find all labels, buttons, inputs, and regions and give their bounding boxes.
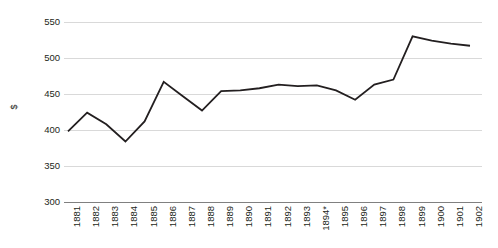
plot-area <box>64 22 482 202</box>
y-axis-tick-label: 550 <box>26 17 60 27</box>
y-axis-tick-label: 450 <box>26 89 60 99</box>
x-axis-tick-label: 1900 <box>436 206 446 246</box>
x-axis-tick-label: 1902 <box>474 206 484 246</box>
x-axis-tick-label: 1901 <box>455 206 465 246</box>
x-axis-tick-label: 1893 <box>302 206 312 246</box>
x-axis-tick-label: 1894* <box>321 206 331 246</box>
x-axis-tick-label: 1895 <box>340 206 350 246</box>
x-axis-tick-label: 1888 <box>206 206 216 246</box>
line-chart: $ 300350400450500550 1881188218831884188… <box>0 0 498 248</box>
x-axis-tick-label: 1886 <box>168 206 178 246</box>
series-line-dollar <box>68 36 470 141</box>
x-axis-tick-label: 1889 <box>225 206 235 246</box>
x-axis-tick-label: 1882 <box>91 206 101 246</box>
y-axis-title: $ <box>9 95 19 119</box>
x-axis-tick-label: 1897 <box>378 206 388 246</box>
x-axis-tick-label: 1885 <box>149 206 159 246</box>
x-axis-tick-label: 1890 <box>244 206 254 246</box>
series-line-group <box>64 22 482 202</box>
x-axis-tick-label: 1887 <box>187 206 197 246</box>
x-axis-tick-label: 1899 <box>417 206 427 246</box>
y-axis-tick-label: 300 <box>26 197 60 207</box>
x-axis-tick-label: 1892 <box>283 206 293 246</box>
y-axis-tick-label: 350 <box>26 161 60 171</box>
x-axis-tick-label: 1891 <box>263 206 273 246</box>
gridline-300 <box>64 202 482 203</box>
x-axis-tick-label: 1898 <box>397 206 407 246</box>
x-axis-tick-label: 1896 <box>359 206 369 246</box>
y-axis-tick-label: 400 <box>26 125 60 135</box>
y-axis-tick-label: 500 <box>26 53 60 63</box>
x-axis-tick-label: 1881 <box>72 206 82 246</box>
x-axis-tick-label: 1884 <box>129 206 139 246</box>
x-axis-tick-label: 1883 <box>110 206 120 246</box>
